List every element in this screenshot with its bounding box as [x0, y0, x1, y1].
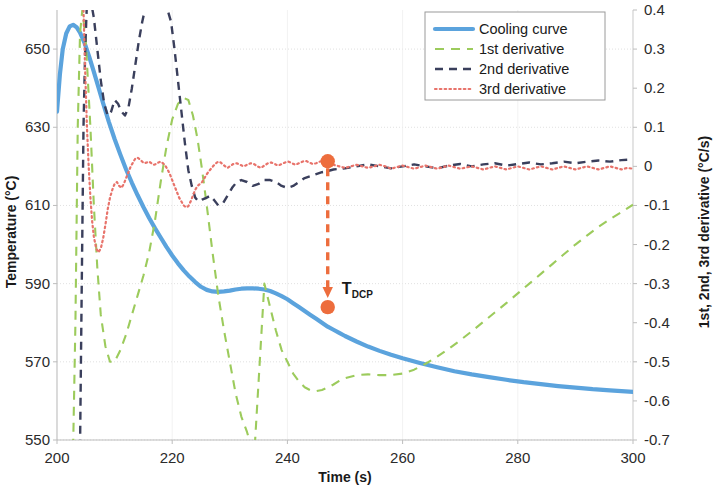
y-right-tick-label: 0.1 [644, 118, 665, 135]
y-right-tick-label: -0.7 [644, 431, 670, 448]
x-tick-label: 260 [390, 449, 415, 466]
y-right-tick-label: 0.2 [644, 79, 665, 96]
y-left-tick-label: 610 [25, 196, 50, 213]
legend-label: 1st derivative [479, 41, 564, 57]
y-left-tick-label: 590 [25, 275, 50, 292]
tdcp-sublabel: DCP [352, 289, 373, 300]
y-left-tick-label: 630 [25, 118, 50, 135]
y-right-tick-label: -0.1 [644, 196, 670, 213]
y-right-tick-label: 0 [644, 157, 652, 174]
tdcp-label: T [342, 280, 352, 297]
legend-label: Cooling curve [479, 21, 568, 37]
chart-figure: TDCP 200220240260280300 6506306105905705… [0, 0, 720, 487]
legend: Cooling curve1st derivative2nd derivativ… [425, 12, 605, 100]
y-right-tick-label: 0.4 [644, 1, 665, 18]
y-left-tick-label: 570 [25, 353, 50, 370]
cooling-curve-chart: TDCP 200220240260280300 6506306105905705… [0, 0, 720, 487]
x-tick-label: 300 [620, 449, 645, 466]
x-tick-label: 200 [44, 449, 69, 466]
y-right-tick-label: -0.4 [644, 314, 670, 331]
figure-background [0, 0, 720, 487]
y-right-tick-label: -0.6 [644, 392, 670, 409]
x-tick-label: 240 [275, 449, 300, 466]
x-axis-title: Time (s) [318, 469, 371, 485]
y-right-tick-label: -0.5 [644, 353, 670, 370]
y-axis-left-title: Temperature (°C) [3, 176, 19, 289]
y-axis-right-title: 1st, 2nd, 3rd derivative (°C/s) [696, 136, 712, 328]
legend-label: 2nd derivative [479, 61, 569, 77]
x-tick-label: 280 [505, 449, 530, 466]
y-right-tick-label: -0.3 [644, 275, 670, 292]
legend-label: 3rd derivative [479, 81, 566, 97]
y-left-tick-label: 550 [25, 431, 50, 448]
y-left-tick-label: 650 [25, 40, 50, 57]
y-right-tick-label: -0.2 [644, 236, 670, 253]
tdcp-marker-upper [321, 154, 335, 168]
tdcp-marker-lower [321, 300, 335, 314]
y-right-tick-label: 0.3 [644, 40, 665, 57]
x-tick-label: 220 [160, 449, 185, 466]
